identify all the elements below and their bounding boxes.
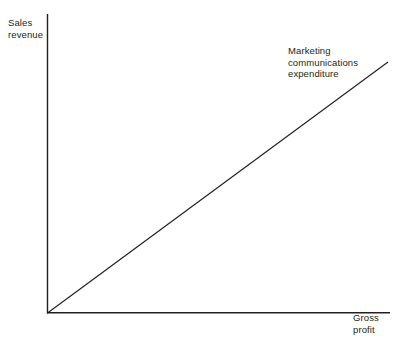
series-annotation-marketing-communications-expenditure: Marketing communications expenditure: [288, 45, 398, 80]
chart-figure: Sales revenue Gross profit Marketing com…: [0, 0, 414, 349]
y-axis-label: Sales revenue: [8, 17, 68, 40]
x-axis-label: Gross profit: [330, 312, 414, 335]
